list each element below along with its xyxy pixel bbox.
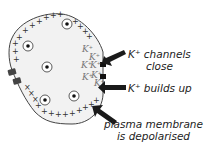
arrow-channels <box>102 50 126 66</box>
svg-text:+: + <box>48 109 55 118</box>
svg-text:+: + <box>50 11 57 20</box>
svg-text:+: + <box>36 17 43 26</box>
svg-text:+: + <box>41 107 48 116</box>
svg-text:+: + <box>43 13 50 22</box>
svg-text:+: + <box>22 26 29 35</box>
svg-text:+: + <box>69 109 76 118</box>
label-channels-line2: close <box>128 60 191 72</box>
svg-text:+: + <box>55 110 62 119</box>
label-channels-line1: K⁺ channels <box>128 48 191 60</box>
svg-text:+: + <box>13 55 20 64</box>
svg-text:+: + <box>86 32 93 41</box>
label-membrane-line2: is depolarised <box>104 130 203 142</box>
label-membrane-line1: plasma membrane <box>104 118 203 130</box>
svg-text:+: + <box>62 110 69 119</box>
svg-text:+: + <box>57 10 64 19</box>
svg-text:+: + <box>29 21 36 30</box>
label-buildup: K⁺ builds up <box>128 82 192 94</box>
svg-text:+: + <box>93 96 100 105</box>
